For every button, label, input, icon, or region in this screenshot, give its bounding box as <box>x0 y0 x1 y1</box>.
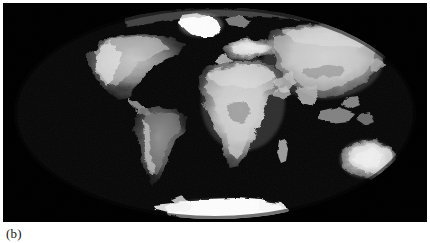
world-radiance-map <box>3 3 427 222</box>
image-grain <box>3 3 427 222</box>
figure-panel-b: (b) <box>0 0 430 243</box>
figure-caption: (b) <box>6 226 22 241</box>
map-image-panel <box>3 3 427 222</box>
